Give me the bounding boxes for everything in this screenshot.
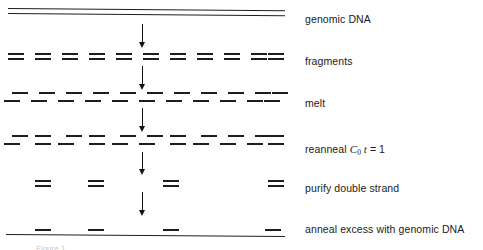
melt-lower-strand-3 — [85, 100, 101, 102]
melt-lower-strand-8 — [220, 100, 236, 102]
melt-upper-strand-8 — [228, 92, 244, 94]
melt-upper-strand-10 — [272, 92, 288, 94]
melt-lower-strand-2 — [58, 100, 74, 102]
purified-duplex-lower-strand-2 — [163, 185, 179, 187]
figure-caption-sliver: Figure 1 — [36, 244, 65, 250]
label-fragments: fragments — [305, 56, 353, 67]
melt-lower-strand-5 — [139, 100, 155, 102]
genomic-dna-upper-strand — [8, 8, 285, 11]
purified-duplex-lower-strand-1 — [88, 185, 104, 187]
fragment-lower-strand-5 — [143, 58, 159, 60]
fragment-upper-strand-7 — [197, 53, 213, 55]
reanneal-reannealed-upper-strand-3 — [89, 135, 105, 137]
fragment-upper-strand-2 — [62, 53, 78, 55]
label-reanneal: reanneal C0 t = 1 — [305, 144, 385, 156]
fragment-lower-strand-2 — [62, 58, 78, 60]
fragment-upper-strand-5 — [143, 53, 159, 55]
reanneal-single-upper-strand-8 — [228, 135, 244, 137]
fragment-lower-strand-1 — [35, 58, 51, 60]
melt-lower-strand-7 — [193, 100, 209, 102]
purified-duplex-lower-strand-3 — [268, 185, 284, 187]
dna-cot1-diagram: genomic DNA fragments melt reanneal C0 t… — [0, 0, 483, 250]
reanneal-reannealed-lower-strand-1 — [35, 143, 51, 145]
melt-upper-strand-9 — [255, 92, 271, 94]
purified-duplex-upper-strand-1 — [88, 180, 104, 182]
melt-upper-strand-6 — [174, 92, 190, 94]
melt-lower-strand-10 — [264, 100, 280, 102]
melt-upper-strand-2 — [66, 92, 82, 94]
cot-formula: C0 t = 1 — [350, 143, 385, 155]
purified-duplex-upper-strand-0 — [35, 180, 51, 182]
genomic-dna-bottom-line — [6, 234, 285, 237]
reanneal-reannealed-upper-strand-6 — [170, 135, 186, 137]
reanneal-single-lower-strand-0 — [4, 143, 20, 145]
fragment-lower-strand-6 — [170, 58, 186, 60]
reanneal-single-upper-strand-4 — [120, 135, 136, 137]
fragment-upper-strand-8 — [224, 53, 240, 55]
fragment-upper-strand-0 — [8, 53, 24, 55]
label-genomic-dna: genomic DNA — [305, 14, 371, 25]
fragment-lower-strand-8 — [224, 58, 240, 60]
melt-upper-strand-5 — [147, 92, 163, 94]
annealed-repeat-dash-1 — [88, 229, 104, 231]
fragment-upper-strand-9 — [251, 53, 267, 55]
reanneal-single-lower-strand-2 — [58, 143, 74, 145]
reanneal-single-upper-strand-0 — [12, 135, 28, 137]
reanneal-single-lower-strand-8 — [220, 143, 236, 145]
fragment-lower-strand-9 — [251, 58, 267, 60]
fragment-upper-strand-6 — [170, 53, 186, 55]
annealed-repeat-dash-2 — [163, 229, 179, 231]
annealed-repeat-dash-3 — [265, 229, 281, 231]
fragment-upper-strand-3 — [89, 53, 105, 55]
fragment-lower-strand-7 — [197, 58, 213, 60]
reanneal-single-lower-strand-7 — [193, 143, 209, 145]
reanneal-reannealed-lower-strand-6 — [170, 143, 186, 145]
fragment-lower-strand-3 — [89, 58, 105, 60]
melt-lower-strand-1 — [31, 100, 47, 102]
genomic-dna-lower-strand — [8, 13, 285, 16]
melt-upper-strand-4 — [120, 92, 136, 94]
reanneal-single-upper-strand-5 — [147, 135, 163, 137]
fragment-upper-strand-4 — [116, 53, 132, 55]
reanneal-reannealed-upper-strand-1 — [35, 135, 51, 137]
melt-lower-strand-0 — [4, 100, 20, 102]
reanneal-reannealed-lower-strand-10 — [268, 143, 284, 145]
fragment-lower-strand-10 — [268, 58, 284, 60]
reanneal-single-lower-strand-5 — [139, 143, 155, 145]
melt-lower-strand-6 — [166, 100, 182, 102]
annealed-repeat-dash-0 — [35, 229, 51, 231]
label-melt: melt — [305, 98, 325, 109]
fragment-lower-strand-0 — [8, 58, 24, 60]
fragment-upper-strand-10 — [268, 53, 284, 55]
melt-lower-strand-4 — [112, 100, 128, 102]
label-purify-double-strand: purify double strand — [305, 183, 399, 194]
reanneal-single-lower-strand-9 — [247, 143, 263, 145]
fragment-lower-strand-4 — [116, 58, 132, 60]
reanneal-single-lower-strand-4 — [112, 143, 128, 145]
melt-upper-strand-0 — [12, 92, 28, 94]
purified-duplex-upper-strand-2 — [163, 180, 179, 182]
cot-equals: = 1 — [370, 143, 385, 155]
melt-upper-strand-7 — [201, 92, 217, 94]
fragment-upper-strand-1 — [35, 53, 51, 55]
reanneal-single-upper-strand-7 — [201, 135, 217, 137]
label-reanneal-text: reanneal — [305, 143, 347, 155]
melt-upper-strand-3 — [93, 92, 109, 94]
purified-duplex-lower-strand-0 — [35, 185, 51, 187]
melt-upper-strand-1 — [39, 92, 55, 94]
reanneal-reannealed-upper-strand-10 — [268, 135, 284, 137]
melt-lower-strand-9 — [247, 100, 263, 102]
label-anneal-excess: anneal excess with genomic DNA — [305, 224, 464, 235]
reanneal-single-upper-strand-2 — [66, 135, 82, 137]
reanneal-reannealed-lower-strand-3 — [89, 143, 105, 145]
purified-duplex-upper-strand-3 — [268, 180, 284, 182]
